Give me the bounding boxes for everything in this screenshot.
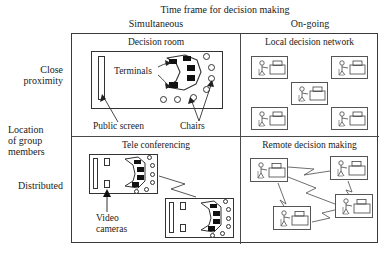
person-at-desk-icon xyxy=(336,195,374,219)
person-at-desk-icon xyxy=(332,108,369,131)
row-header-distributed: Distributed xyxy=(18,180,63,191)
row-header-close-proximity-line2: proximity xyxy=(24,75,63,86)
matrix-grid: Decision room Terminals xyxy=(71,33,378,243)
cell-remote-decision-making: Remote decision making xyxy=(240,136,379,244)
annotation-video-cameras-line1: Video xyxy=(96,213,127,224)
annotation-video-cameras-line2: cameras xyxy=(96,224,127,235)
workstation-office xyxy=(250,158,288,182)
person-at-desk-icon xyxy=(292,83,329,106)
cell-title-local-decision-network: Local decision network xyxy=(240,37,379,47)
workstation-office xyxy=(251,107,288,130)
workstation-office xyxy=(251,56,288,79)
person-at-desk-icon xyxy=(252,57,289,80)
annotation-chairs: Chairs xyxy=(180,121,205,132)
workstation-office xyxy=(331,56,368,79)
row-axis-title-line2: of group xyxy=(8,135,45,146)
row-header-close-proximity-line1: Close xyxy=(24,64,63,75)
workstation-office xyxy=(330,156,368,180)
workstation-office xyxy=(335,194,373,218)
cell-tele-conferencing: Tele conferencing xyxy=(72,136,240,244)
person-at-desk-icon xyxy=(274,207,312,231)
cell-local-decision-network: Local decision network xyxy=(240,34,379,136)
chairs-leader-lines xyxy=(72,34,240,136)
person-at-desk-icon xyxy=(332,57,369,80)
annotation-video-cameras: Video cameras xyxy=(96,213,127,234)
workstation-office xyxy=(291,82,328,105)
column-header-ongoing: On-going xyxy=(291,18,329,29)
row-axis-title: Location of group members xyxy=(8,124,45,158)
row-axis-title-line3: members xyxy=(8,146,45,157)
person-at-desk-icon xyxy=(252,108,289,131)
cell-decision-room: Decision room Terminals xyxy=(72,34,240,136)
person-at-desk-icon xyxy=(251,159,289,183)
column-header-simultaneous: Simultaneous xyxy=(129,18,183,29)
workstation-office xyxy=(273,206,311,230)
row-header-close-proximity: Close proximity xyxy=(24,64,63,86)
person-at-desk-icon xyxy=(331,157,369,181)
column-axis-title: Time frame for decision making xyxy=(160,4,289,15)
workstation-office xyxy=(331,107,368,130)
row-axis-title-line1: Location xyxy=(8,124,45,135)
